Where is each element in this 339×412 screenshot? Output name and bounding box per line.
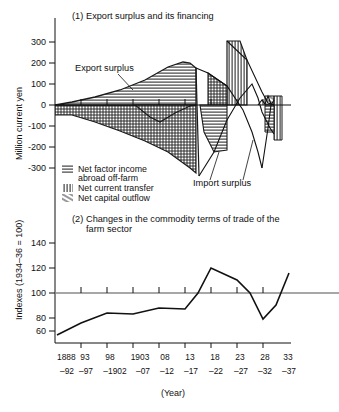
legend-swatch-net-current-transfer: [62, 184, 73, 192]
panel-1-ylabel: Million current yen: [14, 87, 24, 160]
panel-1-title: Export surplus and its financing: [86, 11, 214, 21]
panel-2-ytick-60: 60: [36, 326, 46, 336]
series-net-current-transfer-right: [274, 96, 282, 140]
panel-2-ytick-80: 80: [36, 313, 46, 323]
legend-swatch-net-factor-income: [62, 165, 73, 173]
figure-root: (1) Export surplus and its financing Mil…: [0, 0, 339, 412]
legend-label-net-current-transfer: Net current transfer: [78, 183, 154, 193]
xtick-98: 98: [105, 352, 115, 362]
panel-1-ytick-m100: -100: [28, 121, 46, 131]
panel-2-ylabel: Indexes (1934–36 = 100): [14, 220, 24, 320]
xtick-12: –12: [160, 366, 174, 376]
xtick-1888: 1888: [57, 352, 76, 362]
xtick-28: 28: [260, 352, 270, 362]
panel-2-ytick-120: 120: [31, 263, 46, 273]
panel-1-number: (1): [72, 11, 83, 21]
xtick-97: –97: [79, 366, 93, 376]
legend-label-net-factor-income-line2: abroad off-farm: [78, 173, 138, 183]
x-axis-label: (Year): [161, 388, 185, 398]
xtick-1902: –1902: [103, 366, 127, 376]
xtick-33: 33: [283, 352, 293, 362]
xtick-08: 08: [160, 352, 170, 362]
xtick-37: –37: [282, 366, 296, 376]
xtick-32: –32: [258, 366, 272, 376]
panel-1-ytick-200: 200: [31, 58, 46, 68]
xtick-18: 18: [210, 352, 220, 362]
panel-2-ytick-100: 100: [31, 288, 46, 298]
xtick-17: –17: [184, 366, 198, 376]
panel-2-number: (2): [72, 214, 83, 224]
panel-1-ytick-m200: -200: [28, 142, 46, 152]
xtick-93: 93: [80, 352, 90, 362]
xtick-13: 13: [185, 352, 195, 362]
panel-2-title-line1: Changes in the commodity terms of trade …: [86, 214, 280, 224]
two-panel-chart: (1) Export surplus and its financing Mil…: [0, 0, 339, 412]
panel-2-ytick-140: 140: [31, 238, 46, 248]
xtick-07: –07: [136, 366, 150, 376]
chart-background: [0, 0, 339, 412]
legend-label-net-capital-outflow: Net capital outflow: [78, 193, 151, 203]
xtick-22: –22: [209, 366, 223, 376]
panel-1-ytick-300: 300: [31, 37, 46, 47]
xtick-23: 23: [235, 352, 245, 362]
legend-swatch-net-capital-outflow: [62, 194, 73, 202]
panel-1-ytick-0: 0: [41, 100, 46, 110]
xtick-92: –92: [60, 366, 74, 376]
panel-1-ytick-m300: -300: [28, 163, 46, 173]
annotation-export-surplus: Export surplus: [75, 63, 134, 73]
xtick-1903: 1903: [131, 352, 150, 362]
panel-1-ytick-100: 100: [31, 79, 46, 89]
panel-2-title-line2: farm sector: [86, 224, 132, 234]
xtick-27: –27: [234, 366, 248, 376]
